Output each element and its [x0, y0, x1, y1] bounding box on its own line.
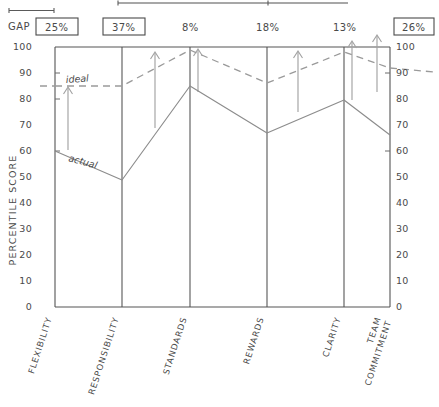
- y-tick-left-0: 0: [26, 301, 32, 312]
- series-actual: [55, 86, 390, 180]
- y-tick-left-60: 60: [19, 145, 32, 156]
- y-tick-right-80: 80: [396, 93, 409, 104]
- y-tick-left-40: 40: [19, 197, 32, 208]
- y-axis-right-labels: 100 90 80 70 60 50 40 30 20 10 0: [396, 41, 415, 312]
- y-tick-right-50: 50: [396, 171, 409, 182]
- gap-value-responsibility: 37%: [112, 22, 135, 33]
- gap-arrow-responsibility: [151, 52, 160, 128]
- y-tick-right-100: 100: [396, 41, 415, 52]
- x-label-flexibility: FLEXIBILITY: [26, 316, 54, 375]
- chart-container: GAP 25% 37% 8% 18% 13% 26%: [0, 0, 439, 407]
- x-label-responsibility: RESPONSIBILITY: [86, 316, 121, 396]
- y-tick-left-50: 50: [19, 171, 32, 182]
- gap-value-standards: 8%: [182, 22, 199, 33]
- gap-row-label: GAP: [8, 21, 30, 32]
- chart-svg: GAP 25% 37% 8% 18% 13% 26%: [0, 0, 439, 407]
- x-axis-labels: FLEXIBILITY RESPONSIBILITY STANDARDS REW…: [26, 316, 393, 396]
- gap-value-clarity: 13%: [333, 22, 356, 33]
- gap-arrow-rewards: [294, 51, 303, 112]
- series-annotations: ideal actual: [65, 72, 99, 170]
- y-tick-right-70: 70: [396, 119, 409, 130]
- y-tick-left-30: 30: [19, 223, 32, 234]
- y-tick-left-20: 20: [19, 249, 32, 260]
- gap-arrow-clarity: [348, 41, 357, 100]
- gap-row: GAP 25% 37% 8% 18% 13% 26%: [8, 18, 434, 35]
- y-tick-right-90: 90: [396, 67, 409, 78]
- gap-value-team-commitment: 26%: [402, 22, 425, 33]
- x-label-team-commitment: TEAMCOMMITMENT: [352, 316, 393, 387]
- y-tick-left-70: 70: [19, 119, 32, 130]
- y-tick-left-10: 10: [19, 275, 32, 286]
- series-ideal: [40, 50, 434, 86]
- y-tick-right-40: 40: [396, 197, 409, 208]
- gap-arrow-flexibility: [64, 87, 73, 150]
- gap-value-flexibility: 25%: [45, 22, 68, 33]
- y-tick-right-10: 10: [396, 275, 409, 286]
- y-tick-right-60: 60: [396, 145, 409, 156]
- x-label-standards: STANDARDS: [161, 316, 189, 376]
- x-label-rewards: REWARDS: [241, 316, 266, 366]
- gap-arrows: [64, 35, 382, 150]
- y-tick-right-30: 30: [396, 223, 409, 234]
- y-tick-right-20: 20: [396, 249, 409, 260]
- cropped-top-artifact: [9, 1, 348, 14]
- y-tick-left-100: 100: [13, 41, 32, 52]
- y-tick-left-90: 90: [19, 67, 32, 78]
- x-label-clarity: CLARITY: [320, 316, 342, 359]
- y-axis-title: PERCENTILE SCORE: [7, 155, 18, 266]
- actual-series-label: actual: [67, 152, 98, 170]
- y-axis-ticks: [55, 73, 390, 151]
- gap-value-rewards: 18%: [256, 22, 279, 33]
- y-tick-left-80: 80: [19, 93, 32, 104]
- ideal-series-label: ideal: [65, 72, 89, 85]
- y-tick-right-0: 0: [396, 301, 402, 312]
- gap-arrow-team-commitment: [373, 35, 382, 92]
